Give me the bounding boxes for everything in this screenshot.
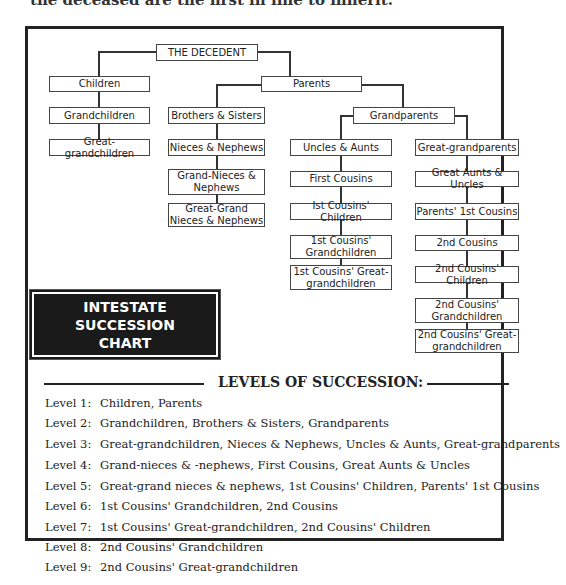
node-children: Children [49, 76, 150, 92]
node-first-cousins-children: Ist Cousins' Children [290, 203, 392, 220]
node-second-cousins-children: 2nd Cousins' Children [415, 266, 519, 283]
level-row: Level 5:Great-grand nieces & nephews, 1s… [45, 479, 539, 493]
node-second-cousins-grandchildren: 2nd Cousins' Grandchildren [415, 298, 519, 323]
node-parents-first-cousins: Parents' 1st Cousins [415, 203, 519, 220]
heading-rule-left [44, 383, 204, 385]
level-row: Level 3:Great-grandchildren, Nieces & Ne… [45, 437, 560, 451]
node-grandchildren: Grandchildren [49, 107, 150, 124]
node-brothers-sisters: Brothers & Sisters [168, 107, 265, 124]
node-great-grandchildren: Great-grandchildren [49, 139, 150, 156]
node-first-cousins: First Cousins [290, 171, 392, 187]
level-row: Level 4:Grand-nieces & -nephews, First C… [45, 458, 470, 472]
node-great-grand-nieces-nephews: Great-Grand Nieces & Nephews [168, 203, 265, 227]
node-great-grandparents: Great-grandparents [415, 139, 519, 156]
node-great-aunts-uncles: Great Aunts & Uncles [415, 171, 519, 187]
level-row: Level 9:2nd Cousins' Great-grandchildren [45, 560, 298, 574]
node-first-cousins-grandchildren: 1st Cousins' Grandchildren [290, 235, 392, 259]
level-row: Level 7:1st Cousins' Great-grandchildren… [45, 520, 430, 534]
node-second-cousins: 2nd Cousins [415, 235, 519, 251]
levels-heading: LEVELS OF SUCCESSION: [44, 374, 504, 394]
node-decedent: THE DECEDENT [156, 44, 258, 61]
title-line-3: CHART [34, 334, 216, 352]
level-row: Level 6:1st Cousins' Grandchildren, 2nd … [45, 499, 338, 513]
node-grand-nieces-nephews: Grand-Nieces & Nephews [168, 169, 265, 195]
level-row: Level 8:2nd Cousins' Grandchildren [45, 540, 263, 554]
title-line-2: SUCCESSION [34, 316, 216, 334]
title-line-1: INTESTATE [34, 298, 216, 316]
node-parents: Parents [261, 76, 362, 92]
levels-heading-text: LEVELS OF SUCCESSION: [214, 374, 427, 390]
node-second-cousins-great-grandchildren: 2nd Cousins' Great-grandchildren [415, 329, 519, 353]
level-row: Level 1:Children, Parents [45, 396, 202, 410]
node-grandparents: Grandparents [353, 107, 455, 124]
node-nieces-nephews: Nieces & Nephews [168, 139, 265, 156]
clipped-header-text: the deceased are the first in line to in… [30, 0, 393, 9]
chart-title-badge: INTESTATE SUCCESSION CHART [32, 292, 218, 357]
node-first-cousins-great-grandchildren: 1st Cousins' Great-grandchildren [290, 265, 392, 290]
node-uncles-aunts: Uncles & Aunts [290, 139, 392, 156]
level-row: Level 2:Grandchildren, Brothers & Sister… [45, 416, 389, 430]
